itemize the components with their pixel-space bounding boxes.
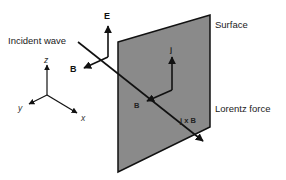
j-cross-b-label: j x B: [180, 117, 196, 125]
b-incident-vector-label: B: [70, 65, 77, 74]
z-axis-label: z: [44, 56, 48, 65]
x-axis-label: x: [81, 114, 85, 123]
x-axis-arrow: [47, 95, 77, 113]
y-axis-arrow: [29, 95, 47, 104]
e-vector-label: E: [104, 12, 110, 21]
j-vector-label: j: [170, 46, 172, 54]
b-surface-vector-label: B: [134, 102, 139, 110]
lorentz-force-label: Lorentz force: [215, 104, 270, 114]
incident-wave-label: Incident wave: [8, 36, 66, 46]
y-axis-label: y: [18, 104, 22, 113]
surface-label: Surface: [215, 20, 248, 30]
